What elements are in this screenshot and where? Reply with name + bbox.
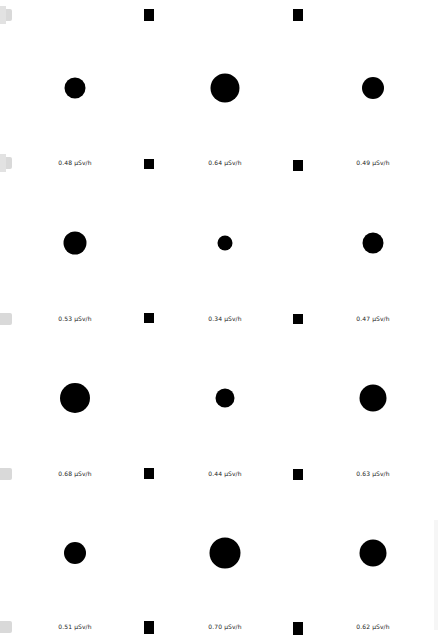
dose-circle-icon xyxy=(360,385,387,412)
dose-circle-icon xyxy=(216,389,235,408)
square-marker-icon xyxy=(293,469,303,480)
dose-rate-label: 0.49 µSv/h xyxy=(356,159,389,167)
dose-circle-icon xyxy=(218,236,233,251)
dose-rate-label: 0.48 µSv/h xyxy=(58,159,91,167)
dose-circle-icon xyxy=(362,77,384,99)
edge-tab xyxy=(0,313,12,325)
dose-rate-label: 0.51 µSv/h xyxy=(58,623,91,631)
dose-rate-map: 0.48 µSv/h0.64 µSv/h0.49 µSv/h0.53 µSv/h… xyxy=(0,0,439,644)
dose-rate-label: 0.44 µSv/h xyxy=(208,470,241,478)
dose-rate-label: 0.63 µSv/h xyxy=(356,470,389,478)
square-marker-icon xyxy=(293,314,303,324)
dose-rate-label: 0.68 µSv/h xyxy=(58,470,91,478)
square-marker-icon xyxy=(144,159,154,169)
square-marker-icon xyxy=(144,9,154,21)
dose-circle-icon xyxy=(64,542,86,564)
dose-rate-label: 0.47 µSv/h xyxy=(356,315,389,323)
dose-circle-icon xyxy=(360,540,387,567)
dose-circle-icon xyxy=(211,74,240,103)
edge-tab xyxy=(0,468,12,480)
edge-tab xyxy=(0,157,12,169)
dose-rate-label: 0.34 µSv/h xyxy=(208,315,241,323)
dose-rate-label: 0.70 µSv/h xyxy=(208,623,241,631)
right-edge-strip xyxy=(434,520,438,630)
square-marker-icon xyxy=(293,9,303,21)
dose-circle-icon xyxy=(65,78,86,99)
square-marker-icon xyxy=(144,313,154,323)
square-marker-icon xyxy=(293,622,303,635)
dose-circle-icon xyxy=(363,233,384,254)
dose-circle-icon xyxy=(60,383,90,413)
dose-circle-icon xyxy=(210,538,241,569)
square-marker-icon xyxy=(293,160,303,171)
dose-rate-label: 0.53 µSv/h xyxy=(58,315,91,323)
dose-rate-label: 0.62 µSv/h xyxy=(356,623,389,631)
square-marker-icon xyxy=(144,468,154,479)
square-marker-icon xyxy=(144,621,154,634)
edge-tab xyxy=(0,621,12,633)
edge-tab xyxy=(0,9,12,21)
dose-rate-label: 0.64 µSv/h xyxy=(208,159,241,167)
dose-circle-icon xyxy=(64,232,87,255)
